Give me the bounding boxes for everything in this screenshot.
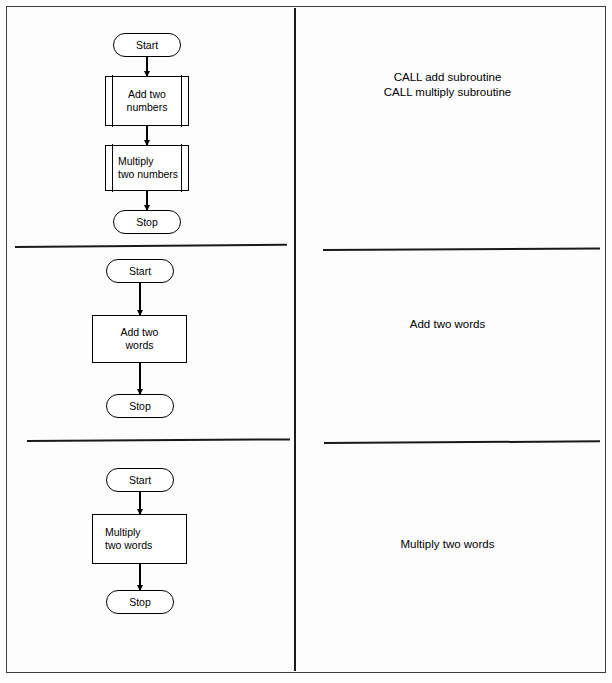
section-2-node-start[interactable]: Start — [106, 259, 174, 283]
section-3-edge-process-to-stop — [139, 564, 141, 590]
section-3-node-start[interactable]: Start — [106, 468, 174, 492]
section-1-edge-start-to-add — [146, 57, 148, 76]
diagram-page: Start Add two numbers Multiply two numbe… — [0, 0, 612, 683]
section-1-node-multiply[interactable]: Multiply two numbers — [105, 145, 189, 191]
section-1-node-start[interactable]: Start — [113, 33, 181, 57]
section-1-edge-multiply-to-stop — [146, 191, 148, 210]
section-2-edge-start-to-process — [139, 283, 141, 315]
section-1-edge-add-to-multiply — [146, 126, 148, 145]
section-1-note: CALL add subroutine CALL multiply subrou… — [315, 70, 580, 100]
section-2-node-stop[interactable]: Stop — [106, 394, 174, 418]
section-2-note: Add two words — [315, 317, 580, 332]
section-3-note: Multiply two words — [315, 537, 580, 552]
section-3-node-stop[interactable]: Stop — [106, 590, 174, 614]
section-3-node-multiply-two-words[interactable]: Multiply two words — [92, 514, 187, 564]
section-3-edge-start-to-process — [139, 492, 141, 514]
section-1-node-stop[interactable]: Stop — [113, 210, 181, 234]
column-divider — [294, 8, 296, 671]
section-1-node-add[interactable]: Add two numbers — [105, 76, 189, 126]
section-2-node-add-two-words[interactable]: Add two words — [92, 315, 187, 363]
section-2-edge-process-to-stop — [139, 363, 141, 394]
